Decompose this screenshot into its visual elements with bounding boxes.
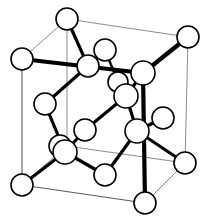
- crystal-structure-figure: Diamond cubic crystal structure unit cel…: [0, 0, 208, 224]
- atom-interior-tetrahedral-lower: [125, 119, 149, 143]
- atom-right-face-center: [152, 107, 174, 129]
- atom-top-back-left-corner: [56, 8, 78, 30]
- atom-bottom-front-right-corner: [134, 192, 156, 214]
- atom-left-face-center: [34, 93, 56, 115]
- atom-top-front-right-corner: [131, 61, 155, 85]
- atom-bottom-back-right-corner: [174, 152, 196, 174]
- atom-bottom-interior-left: [53, 140, 77, 164]
- atom-set: [11, 8, 199, 214]
- atom-top-face-center: [94, 39, 116, 61]
- cube-edge-back-right: [185, 37, 188, 163]
- atom-front-face-center: [74, 119, 96, 141]
- crystal-structure-canvas: [0, 0, 208, 224]
- atom-top-front-left-corner: [11, 48, 33, 70]
- atom-top-back-right-corner: [177, 26, 199, 48]
- atom-bottom-front-left-corner: [11, 174, 33, 196]
- cube-edge-back-top: [67, 19, 188, 37]
- atom-upper-interior-left: [77, 55, 99, 77]
- atom-interior-tetrahedral-upper: [114, 84, 138, 108]
- cube-edge-front-bottom: [22, 185, 145, 203]
- atom-bottom-face-center: [94, 164, 116, 186]
